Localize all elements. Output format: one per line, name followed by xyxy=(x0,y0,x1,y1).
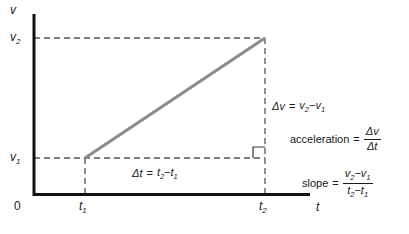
velocity-time-graph-figure: v t 0 v2 v1 t1 t2 Δt = t2−t1 Δv = v2−v1 … xyxy=(0,0,409,234)
delta-v-term2-sub: 1 xyxy=(321,105,325,114)
delta-t-symbol: Δt xyxy=(132,168,142,179)
x-tick-subscript-t1: 1 xyxy=(82,206,86,215)
delta-t-equals: = xyxy=(146,168,152,179)
delta-v-rhs: v2−v1 xyxy=(299,100,325,114)
y-axis-label: v xyxy=(10,4,16,16)
acceleration-formula: acceleration = Δv Δt xyxy=(290,126,381,152)
x-tick-label-t1: t1 xyxy=(79,200,87,215)
slope-numerator: v2−v1 xyxy=(343,168,373,183)
slope-equals: = xyxy=(332,178,338,189)
x-axis-label: t xyxy=(316,201,319,213)
acceleration-denominator: Δt xyxy=(365,140,379,153)
velocity-data-line xyxy=(85,38,265,158)
delta-t-rhs: t2−t1 xyxy=(157,167,178,181)
slope-label: slope xyxy=(302,178,328,189)
delta-v-annotation: Δv = v2−v1 xyxy=(272,100,325,114)
acceleration-label: acceleration xyxy=(290,134,349,145)
delta-v-symbol: Δv xyxy=(272,101,285,112)
slope-fraction: v2−v1 t2−t1 xyxy=(343,168,373,199)
y-tick-label-v2: v2 xyxy=(10,31,20,46)
slope-den-term2-sub: 1 xyxy=(364,190,368,199)
x-tick-label-t2: t2 xyxy=(259,200,267,215)
slope-formula: slope = v2−v1 t2−t1 xyxy=(302,168,373,199)
right-angle-marker xyxy=(253,147,265,158)
acceleration-numerator: Δv xyxy=(364,126,381,139)
slope-denominator: t2−t1 xyxy=(345,184,370,199)
acceleration-equals: = xyxy=(353,134,359,145)
delta-t-term2-sub: 1 xyxy=(174,172,178,181)
y-tick-subscript-v2: 2 xyxy=(16,37,20,46)
y-tick-subscript-v1: 1 xyxy=(16,157,20,166)
acceleration-fraction: Δv Δt xyxy=(364,126,381,152)
delta-t-annotation: Δt = t2−t1 xyxy=(132,167,178,181)
origin-label: 0 xyxy=(14,200,21,212)
y-tick-label-v1: v1 xyxy=(10,151,20,166)
x-tick-subscript-t2: 2 xyxy=(262,206,266,215)
delta-v-equals: = xyxy=(289,101,295,112)
slope-num-term2-sub: 1 xyxy=(366,173,370,182)
